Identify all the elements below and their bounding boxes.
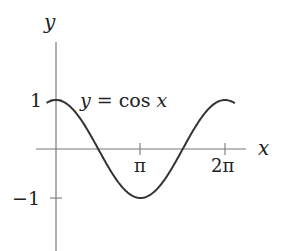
tick-label-1: 1 — [30, 89, 42, 111]
tick-label-pi: π — [134, 155, 146, 176]
annotation-var: x — [157, 89, 168, 111]
annotation-lhs: y — [79, 89, 91, 111]
annotation-eq: = cos — [91, 89, 157, 111]
tick-label-2pi: 2π — [211, 155, 234, 176]
tick-label-neg1: −1 — [12, 187, 40, 209]
cosine-plot: y x 1 −1 π 2π y = cos x — [0, 0, 290, 251]
y-axis-label: y — [43, 10, 56, 34]
x-axis-label: x — [258, 136, 269, 160]
function-annotation: y = cos x — [79, 89, 168, 111]
